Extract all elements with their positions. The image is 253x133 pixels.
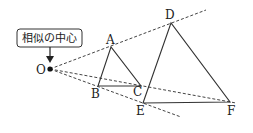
- callout-label: 相似の中心: [22, 32, 77, 45]
- center-point-o: [47, 66, 52, 71]
- homothety-diagram: 相似の中心 O A B C D E F: [0, 0, 253, 133]
- dashed-rays: [50, 10, 236, 117]
- diagram-canvas: 相似の中心 O A B C D E F: [0, 0, 253, 133]
- label-c: C: [133, 85, 142, 99]
- label-e: E: [136, 104, 145, 118]
- triangle-abc: [98, 47, 141, 86]
- ray-o-c-f: [50, 69, 236, 103]
- label-d: D: [165, 8, 175, 22]
- ray-o-b-e: [50, 69, 181, 117]
- arrow-down-icon: [46, 56, 54, 63]
- label-f: F: [227, 104, 235, 118]
- label-a: A: [105, 33, 115, 47]
- triangle-def: [143, 23, 230, 103]
- label-b: B: [91, 87, 100, 101]
- label-o: O: [36, 63, 46, 77]
